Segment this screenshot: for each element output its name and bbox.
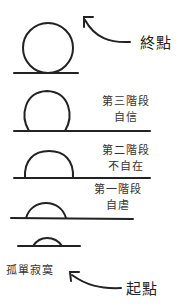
- dome-stage-1: [26, 203, 66, 218]
- stage-3-state: 自信: [100, 112, 152, 124]
- dome-start: [33, 238, 62, 246]
- start-state-label: 孤單寂寞: [6, 265, 54, 277]
- arrow-to-end: [85, 20, 130, 42]
- stage-2-state: 不自在: [100, 161, 152, 173]
- dome-stage-2: [25, 151, 73, 178]
- arrow-to-start: [72, 275, 121, 288]
- full-circle-end: [23, 23, 73, 73]
- dome-stage-3: [25, 91, 70, 131]
- stage-1-name: 第一階段: [92, 184, 144, 196]
- end-label: 終點: [140, 35, 172, 51]
- stage-2-name: 第二階段: [100, 145, 152, 157]
- stage-1-state: 自虐: [92, 200, 144, 212]
- ground-line-stage-1: [11, 218, 133, 219]
- stage-3-name: 第三階段: [100, 96, 152, 108]
- start-label: 起點: [126, 281, 158, 297]
